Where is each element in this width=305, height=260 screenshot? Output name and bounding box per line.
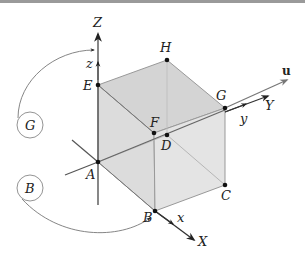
label-z-small: z <box>85 56 93 71</box>
label-z-axis: Z <box>92 15 103 30</box>
point-h <box>165 58 170 63</box>
point-e <box>96 83 101 88</box>
label-e: E <box>82 78 93 93</box>
label-y-small: y <box>239 111 248 126</box>
label-b: B <box>142 210 153 225</box>
rotation-label-g: G <box>25 118 35 133</box>
label-u: u <box>282 64 291 78</box>
u-vector <box>225 80 287 108</box>
label-f: F <box>149 115 160 130</box>
label-c: C <box>221 188 231 203</box>
label-h: H <box>159 40 172 55</box>
label-y-axis: Y <box>265 98 275 113</box>
point-b <box>153 209 158 214</box>
point-g <box>223 106 228 111</box>
label-x-axis: X <box>197 234 208 249</box>
label-x-small: x <box>177 210 185 225</box>
point-d <box>165 133 170 138</box>
label-a: A <box>85 167 95 182</box>
point-c <box>223 183 228 188</box>
rotation-label-b: B <box>24 181 35 196</box>
point-a <box>96 160 101 165</box>
cube-diagram: Z z E H G u Y y F D A C B x X G B <box>0 0 305 260</box>
point-f <box>152 131 157 136</box>
label-g: G <box>216 88 226 103</box>
label-d: D <box>160 138 172 153</box>
